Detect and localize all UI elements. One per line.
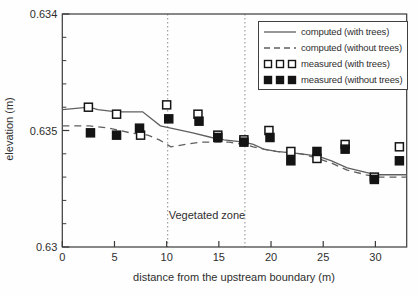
y-axis-title: elevation (m): [3, 29, 15, 229]
solid-line-icon: [263, 26, 297, 38]
measured-without-trees-marker: [240, 138, 248, 146]
measured-with-trees-marker: [287, 147, 295, 155]
figure: 0.630.6350.634051015202530 computed (wit…: [0, 0, 418, 295]
legend-item-measured-with-trees: measured (with trees): [263, 56, 407, 72]
vegetated-zone-label: Vegetated zone: [107, 209, 307, 221]
measured-with-trees-marker: [113, 110, 121, 118]
legend-item-measured-without-trees: measured (without trees): [263, 72, 407, 88]
legend-box: computed (with trees) computed (without …: [258, 21, 408, 90]
measured-without-trees-marker: [370, 175, 378, 183]
x-tick-label: 0: [59, 251, 65, 263]
measured-without-trees-marker: [195, 117, 203, 125]
y-tick-label: 0.635: [30, 125, 58, 137]
legend-item-computed-without-trees: computed (without trees): [263, 40, 407, 56]
measured-with-trees-marker: [395, 143, 403, 151]
x-tick-label: 5: [111, 251, 117, 263]
dashed-line-icon: [263, 42, 297, 54]
measured-without-trees-marker: [165, 115, 173, 123]
x-tick-label: 30: [369, 251, 381, 263]
measured-without-trees-marker: [136, 124, 144, 132]
measured-without-trees-marker: [313, 147, 321, 155]
measured-without-trees-marker: [266, 133, 274, 141]
legend-label: measured (with trees): [301, 58, 390, 69]
x-tick-label: 15: [213, 251, 225, 263]
measured-without-trees-marker: [214, 133, 222, 141]
x-tick-label: 20: [265, 251, 277, 263]
y-tick-label: 0.634: [30, 8, 58, 20]
open-square-icon: [263, 58, 297, 70]
measured-with-trees-marker: [84, 103, 92, 111]
legend-label: measured (without trees): [301, 74, 402, 85]
legend-item-computed-with-trees: computed (with trees): [263, 24, 407, 40]
x-tick-label: 10: [161, 251, 173, 263]
measured-without-trees-marker: [341, 145, 349, 153]
measured-without-trees-marker: [86, 129, 94, 137]
measured-without-trees-marker: [287, 157, 295, 165]
measured-with-trees-marker: [163, 101, 171, 109]
x-axis-title: distance from the upstream boundary (m): [59, 271, 409, 283]
x-tick-label: 25: [317, 251, 329, 263]
legend-label: computed (with trees): [301, 26, 389, 37]
measured-without-trees-marker: [113, 131, 121, 139]
measured-without-trees-marker: [395, 157, 403, 165]
filled-square-icon: [263, 74, 297, 86]
legend-label: computed (without trees): [301, 42, 402, 53]
y-tick-label: 0.63: [36, 241, 57, 253]
